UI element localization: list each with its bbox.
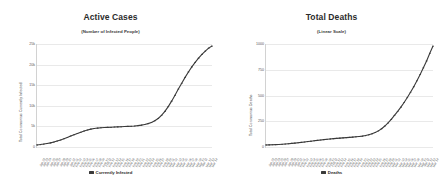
data-point bbox=[304, 141, 306, 142]
data-point bbox=[39, 144, 41, 145]
data-point bbox=[83, 130, 85, 131]
data-point bbox=[294, 143, 296, 144]
chart-panel-active-cases: Active Cases (Number of Infected People)… bbox=[0, 0, 221, 188]
chart-legend[interactable]: Deaths bbox=[221, 170, 442, 175]
chart-legend[interactable]: Currently Infected bbox=[0, 170, 221, 175]
legend-label: Deaths bbox=[328, 170, 342, 175]
data-point bbox=[323, 139, 325, 140]
data-point bbox=[333, 138, 335, 139]
data-point bbox=[403, 102, 405, 103]
data-point bbox=[70, 135, 72, 136]
data-point bbox=[349, 137, 351, 138]
data-point bbox=[291, 143, 293, 144]
data-point bbox=[187, 71, 189, 72]
series-line-currently-infected bbox=[37, 44, 212, 147]
legend-marker-icon bbox=[89, 171, 94, 173]
data-point bbox=[316, 140, 318, 141]
y-axis-title: Total Coronavirus Deaths bbox=[249, 94, 253, 136]
data-point bbox=[80, 132, 82, 133]
data-point bbox=[150, 122, 152, 123]
legend-marker-icon bbox=[321, 171, 326, 173]
data-point bbox=[278, 144, 280, 145]
y-tick-label: 250 bbox=[258, 119, 264, 123]
data-point bbox=[336, 138, 338, 139]
series-path bbox=[37, 46, 212, 145]
data-point bbox=[281, 144, 283, 145]
data-point bbox=[100, 127, 102, 128]
y-tick-label: 5k bbox=[31, 124, 35, 128]
y-tick-label: 15k bbox=[29, 83, 35, 87]
data-point bbox=[171, 101, 173, 102]
data-point bbox=[288, 143, 290, 144]
data-point bbox=[204, 51, 206, 52]
data-point bbox=[46, 143, 48, 144]
y-tick-label: 0 bbox=[262, 145, 264, 149]
y-tick-label: 10k bbox=[29, 104, 35, 108]
plot-canvas: 02505007501000 bbox=[265, 44, 433, 148]
data-point bbox=[120, 126, 122, 127]
data-point bbox=[56, 140, 58, 141]
data-point bbox=[342, 137, 344, 138]
y-tick-label: 500 bbox=[258, 94, 264, 98]
data-point bbox=[419, 74, 421, 75]
data-point bbox=[157, 118, 159, 119]
data-point bbox=[265, 144, 267, 145]
data-point bbox=[310, 141, 312, 142]
y-tick-label: 1000 bbox=[256, 42, 264, 46]
data-point bbox=[381, 128, 383, 129]
data-point bbox=[394, 115, 396, 116]
plot-canvas: 05k10k15k20k25k bbox=[36, 44, 212, 148]
data-point bbox=[167, 106, 169, 107]
data-point bbox=[164, 111, 166, 112]
data-point bbox=[127, 126, 129, 127]
data-point bbox=[410, 92, 412, 93]
series-path bbox=[266, 46, 433, 145]
data-point bbox=[93, 128, 95, 129]
data-point bbox=[161, 115, 163, 116]
data-point bbox=[63, 138, 65, 139]
data-point bbox=[387, 122, 389, 123]
data-point bbox=[300, 142, 302, 143]
data-point bbox=[49, 142, 51, 143]
data-point bbox=[211, 45, 213, 46]
data-point bbox=[371, 133, 373, 134]
plot-area: 02505007501000 Jan 22Jan 23Jan 24Jan 25J… bbox=[265, 44, 433, 148]
y-axis-title: Total Coronavirus Currently Infected bbox=[19, 83, 23, 143]
data-point bbox=[137, 125, 139, 126]
data-point bbox=[97, 128, 99, 129]
data-point bbox=[177, 88, 179, 89]
data-point bbox=[297, 142, 299, 143]
y-tick-label: 20k bbox=[29, 63, 35, 67]
data-point bbox=[208, 48, 210, 49]
data-point bbox=[313, 140, 315, 141]
data-point bbox=[198, 58, 200, 59]
data-point bbox=[275, 144, 277, 145]
data-point bbox=[400, 107, 402, 108]
data-point bbox=[365, 135, 367, 136]
data-point bbox=[60, 139, 62, 140]
chart-title: Active Cases bbox=[0, 12, 221, 22]
y-tick-label: 25k bbox=[29, 42, 35, 46]
data-point bbox=[43, 143, 45, 144]
data-point bbox=[76, 133, 78, 134]
chart-title: Total Deaths bbox=[221, 12, 442, 22]
data-point bbox=[181, 83, 183, 84]
y-tick-label: 750 bbox=[258, 68, 264, 72]
data-point bbox=[358, 136, 360, 137]
data-point bbox=[413, 86, 415, 87]
data-point bbox=[154, 120, 156, 121]
data-point bbox=[368, 134, 370, 135]
data-point bbox=[397, 111, 399, 112]
chart-subtitle: (Linear Scale) bbox=[221, 29, 442, 34]
data-point bbox=[107, 127, 109, 128]
data-point bbox=[36, 144, 38, 145]
data-point bbox=[87, 129, 89, 130]
data-point bbox=[73, 134, 75, 135]
chart-panel-total-deaths: Total Deaths (Linear Scale) Total Corona… bbox=[221, 0, 442, 188]
data-point bbox=[339, 138, 341, 139]
dual-chart-figure: Active Cases (Number of Infected People)… bbox=[0, 0, 442, 188]
data-point bbox=[147, 123, 149, 124]
data-point bbox=[406, 97, 408, 98]
data-point bbox=[352, 137, 354, 138]
data-point bbox=[355, 136, 357, 137]
